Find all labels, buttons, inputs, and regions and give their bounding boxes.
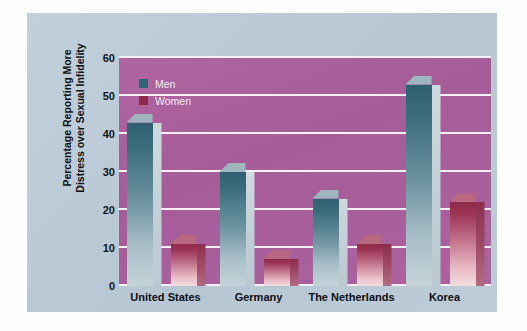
x-axis-category-labels: United StatesGermanyThe NetherlandsKorea (119, 291, 491, 309)
x-axis-category-label: Korea (429, 291, 460, 303)
legend-label-women: Women (155, 95, 191, 107)
bar-top-face (450, 193, 476, 202)
y-axis-tick-label: 30 (81, 166, 115, 178)
bar-front-face (171, 244, 197, 286)
bar-front-face (127, 123, 153, 286)
bar-top-face (264, 250, 290, 259)
bar-side-face (197, 244, 206, 286)
bar-front-face (264, 259, 290, 286)
bar-front-face (450, 202, 476, 286)
y-axis-tick-label: 40 (81, 128, 115, 140)
bar-men (127, 123, 153, 286)
bar-top-face (313, 190, 339, 199)
bar-front-face (313, 199, 339, 286)
bar-side-face (153, 123, 162, 286)
y-axis-title-line1: Percentage Reporting More (61, 18, 74, 218)
x-axis-category-label: United States (130, 291, 200, 303)
bar-women (264, 259, 290, 286)
y-axis-tick-label: 10 (81, 242, 115, 254)
bar-top-face (171, 235, 197, 244)
legend-label-men: Men (155, 78, 175, 90)
bar-women (450, 202, 476, 286)
x-axis-category-label: The Netherlands (308, 291, 394, 303)
y-axis-tick-label: 20 (81, 204, 115, 216)
bar-women (171, 244, 197, 286)
bar-women (357, 244, 383, 286)
gridline (119, 56, 491, 58)
bar-men (313, 199, 339, 286)
legend-swatch-women-icon (139, 96, 148, 105)
chart-panel: Percentage Reporting More Distress over … (27, 13, 497, 312)
bar-side-face (339, 199, 348, 286)
y-axis-tick-labels: 0102030405060 (75, 58, 115, 286)
bar-side-face (432, 85, 441, 286)
bar-side-face (476, 202, 485, 286)
y-axis-tick-label: 0 (81, 280, 115, 292)
bar-men (406, 85, 432, 286)
bar-front-face (406, 85, 432, 286)
bar-side-face (290, 259, 299, 286)
chart-figure: Percentage Reporting More Distress over … (0, 0, 527, 331)
bar-top-face (406, 76, 432, 85)
legend-item-women: Women (139, 93, 191, 108)
legend-swatch-men-icon (139, 79, 148, 88)
chart-legend: Men Women (139, 76, 191, 110)
y-axis-tick-label: 50 (81, 90, 115, 102)
bar-men (220, 172, 246, 286)
bar-side-face (383, 244, 392, 286)
x-axis-category-label: Germany (235, 291, 283, 303)
plot-area: Men Women (119, 58, 491, 286)
bar-side-face (246, 172, 255, 286)
bar-top-face (357, 235, 383, 244)
legend-item-men: Men (139, 76, 191, 91)
bar-top-face (127, 114, 153, 123)
bar-front-face (357, 244, 383, 286)
bar-top-face (220, 163, 246, 172)
bar-front-face (220, 172, 246, 286)
y-axis-tick-label: 60 (81, 52, 115, 64)
